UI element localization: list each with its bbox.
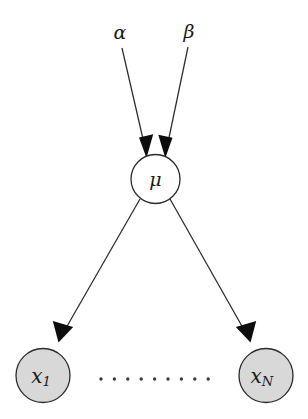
node-mu-label: μ (149, 168, 161, 190)
node-xN-subscript: N (261, 374, 274, 389)
diagram-canvas: α β μ x1 xN (0, 0, 308, 419)
ellipsis-dot (153, 377, 156, 380)
edge-mu-to-xN (170, 199, 243, 328)
graphical-model-svg: α β μ x1 xN (0, 0, 308, 419)
ellipsis-dot (180, 377, 183, 380)
node-xN-base: x (251, 364, 262, 388)
parameters-group: α β (114, 20, 195, 43)
node-x1-base: x (31, 364, 42, 388)
node-mu[interactable]: μ (131, 155, 180, 204)
edge-alpha-to-mu (122, 48, 146, 152)
edge-mu-to-x1 (66, 199, 140, 328)
ellipsis-dot (166, 377, 169, 380)
ellipsis-dot (126, 377, 129, 380)
node-ellipsis (99, 377, 210, 380)
ellipsis-dot (99, 377, 102, 380)
arrowhead-mu-to-x1 (53, 321, 73, 343)
ellipsis-dot (140, 377, 143, 380)
ellipsis-dot (113, 377, 116, 380)
ellipsis-dot (207, 377, 210, 380)
nodes-group: μ x1 xN (16, 155, 293, 403)
arrowhead-mu-to-xN (236, 321, 256, 343)
parameter-beta-label: β (183, 20, 195, 42)
ellipsis-dot (193, 377, 196, 380)
parameter-alpha-label: α (114, 21, 127, 43)
node-x1[interactable]: x1 (16, 349, 70, 403)
edge-beta-to-mu (166, 47, 188, 152)
node-xN[interactable]: xN (239, 349, 293, 403)
node-x1-subscript: 1 (42, 374, 50, 389)
